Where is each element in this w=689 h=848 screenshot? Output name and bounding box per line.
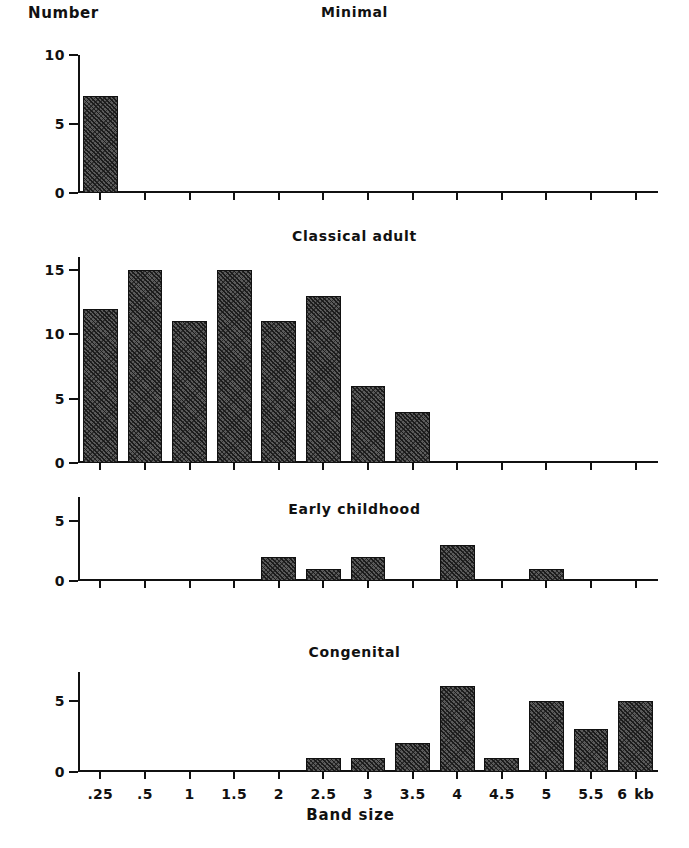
bar (172, 321, 207, 463)
panel-title: Minimal (0, 4, 689, 20)
x-axis-tick-label: 2.5 (311, 786, 337, 802)
y-axis-tick (69, 580, 78, 582)
x-axis-tick (233, 772, 235, 779)
x-axis-unit-label: kb (627, 786, 654, 802)
y-axis-tick (69, 462, 78, 464)
bar (261, 557, 296, 581)
x-axis-tick (144, 772, 146, 779)
x-axis-tick-value: 1.5 (221, 786, 247, 802)
x-axis-tick-label: 4.5 (489, 786, 515, 802)
x-axis-tick (99, 772, 101, 779)
x-axis-tick-label: 3.5 (400, 786, 426, 802)
x-axis-tick (144, 193, 146, 200)
x-axis-tick (278, 581, 280, 588)
bar (440, 545, 475, 581)
histogram-figure: Number Band size Minimal0510Classical ad… (0, 0, 689, 848)
x-axis-tick (189, 772, 191, 779)
x-axis-tick (322, 193, 324, 200)
x-axis-tick (635, 193, 637, 200)
x-axis-tick-value: 4.5 (489, 786, 515, 802)
plot-area: 0510 (78, 55, 658, 193)
x-axis-tick (545, 581, 547, 588)
x-axis-tick (233, 193, 235, 200)
bar (83, 309, 118, 464)
bar (351, 557, 386, 581)
x-axis-tick (189, 581, 191, 588)
y-axis-tick-label: 10 (45, 326, 65, 342)
bar (484, 758, 519, 772)
x-axis-tick (545, 193, 547, 200)
x-axis-tick (144, 581, 146, 588)
x-axis-tick-label: 5 (541, 786, 551, 802)
y-axis-tick (69, 520, 78, 522)
x-axis-tick (412, 463, 414, 470)
x-axis-tick (412, 193, 414, 200)
y-axis-line (78, 497, 80, 581)
x-axis-tick (590, 463, 592, 470)
x-axis-tick (189, 193, 191, 200)
x-axis-title: Band size (0, 806, 689, 824)
x-axis-tick (278, 463, 280, 470)
bar (618, 701, 653, 772)
x-axis-tick-label: .5 (137, 786, 153, 802)
x-axis-tick-label: 2 (274, 786, 284, 802)
x-axis-tick (322, 463, 324, 470)
x-axis-tick-label: 5.5 (578, 786, 604, 802)
y-axis-tick-label: 5 (55, 116, 65, 132)
x-axis-tick (367, 772, 369, 779)
x-axis-tick (635, 581, 637, 588)
x-axis-tick (456, 463, 458, 470)
y-axis-tick-label: 10 (45, 47, 65, 63)
x-axis-tick (545, 463, 547, 470)
y-axis-tick-label: 15 (45, 262, 65, 278)
bar (574, 729, 609, 772)
plot-area: 05 (78, 497, 658, 581)
bar (217, 270, 252, 463)
x-axis-tick-value: 2.5 (311, 786, 337, 802)
x-axis-tick-label: .25 (87, 786, 113, 802)
y-axis-tick-label: 0 (55, 455, 65, 471)
x-axis-tick (233, 463, 235, 470)
y-axis-tick (69, 123, 78, 125)
bar (395, 743, 430, 772)
x-axis-tick (367, 581, 369, 588)
x-axis-tick (501, 463, 503, 470)
x-axis-tick (278, 772, 280, 779)
y-axis-tick (69, 269, 78, 271)
x-axis-tick (99, 581, 101, 588)
x-axis-tick (635, 463, 637, 470)
x-axis-tick-label: 3 (363, 786, 373, 802)
x-axis-tick (456, 581, 458, 588)
x-axis-tick-value: 3.5 (400, 786, 426, 802)
y-axis-line (78, 672, 80, 772)
x-axis-tick-value: 5 (541, 786, 551, 802)
x-axis-tick (456, 193, 458, 200)
plot-area: 05.25.511.522.533.544.555.56kb (78, 672, 658, 772)
x-axis-tick (278, 193, 280, 200)
x-axis-tick-value: 5.5 (578, 786, 604, 802)
x-axis-tick (590, 581, 592, 588)
x-axis-tick-value: 1 (185, 786, 195, 802)
x-axis-tick (322, 772, 324, 779)
bar (440, 686, 475, 772)
bar (351, 386, 386, 463)
x-axis-tick (501, 581, 503, 588)
x-axis-tick (635, 772, 637, 779)
y-axis-tick-label: 0 (55, 573, 65, 589)
y-axis-tick (69, 771, 78, 773)
bar (83, 96, 118, 193)
y-axis-tick-label: 5 (55, 391, 65, 407)
x-axis-tick-label: 1 (185, 786, 195, 802)
bar (306, 569, 341, 581)
bar (128, 270, 163, 463)
bar (306, 758, 341, 772)
y-axis-tick (69, 54, 78, 56)
y-axis-tick (69, 192, 78, 194)
y-axis-tick-label: 0 (55, 764, 65, 780)
x-axis-tick-value: 2 (274, 786, 284, 802)
y-axis-line (78, 55, 80, 193)
x-axis-tick (545, 772, 547, 779)
x-axis-tick-value: 6 (617, 786, 627, 802)
x-axis-tick (456, 772, 458, 779)
x-axis-tick (590, 193, 592, 200)
